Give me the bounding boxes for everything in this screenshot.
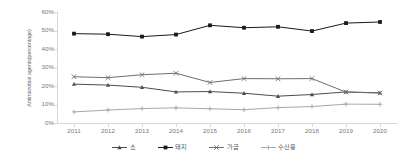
legend-label: 소 [130, 144, 136, 150]
legend-label: 돼지 [175, 144, 187, 150]
data-point-square [344, 21, 348, 25]
data-point-square [163, 145, 167, 149]
data-point-square [140, 35, 144, 39]
data-point-plus [106, 108, 111, 113]
series-line [74, 84, 380, 96]
data-point-plus [72, 110, 77, 115]
data-point-square [276, 25, 280, 29]
data-point-plus [266, 145, 271, 150]
series-소 [72, 82, 382, 98]
data-point-plus [310, 104, 315, 109]
y-axis-tick-mark [54, 105, 57, 106]
data-point-square [208, 23, 212, 27]
legend-item-수산용[interactable]: 수산용 [261, 144, 297, 151]
data-point-plus [208, 106, 213, 111]
legend-item-가금[interactable]: 가금 [209, 144, 239, 151]
legend-marker-icon [158, 144, 173, 151]
data-point-square [378, 20, 382, 24]
y-axis-tick-mark [54, 31, 57, 32]
data-point-plus [140, 106, 145, 111]
series-line [74, 22, 380, 37]
data-point-triangle [117, 145, 121, 149]
data-point-plus [276, 105, 281, 110]
x-axis-tick-mark [312, 124, 313, 127]
series-line [74, 104, 380, 112]
x-axis-tick-mark [108, 124, 109, 127]
series-line [74, 73, 380, 93]
data-point-square [174, 33, 178, 37]
y-axis-tick-mark [54, 68, 57, 69]
x-axis-tick-mark [346, 124, 347, 127]
data-point-plus [344, 102, 349, 107]
series-plot [0, 0, 408, 159]
x-axis-tick-mark [142, 124, 143, 127]
series-가금 [72, 71, 383, 95]
legend-label: 수산용 [278, 144, 296, 150]
data-point-cross [214, 145, 219, 150]
x-axis-tick-mark [74, 124, 75, 127]
x-axis-tick-mark [210, 124, 211, 127]
legend-item-돼지[interactable]: 돼지 [158, 144, 188, 151]
data-point-plus [378, 102, 383, 107]
y-axis-tick-mark [54, 49, 57, 50]
data-point-plus [242, 107, 247, 112]
legend-marker-icon [261, 144, 276, 151]
chart-legend: 소돼지가금수산용 [0, 140, 408, 154]
x-axis-tick-mark [176, 124, 177, 127]
data-point-square [310, 29, 314, 33]
x-axis-tick-mark [244, 124, 245, 127]
series-수산용 [72, 102, 383, 115]
y-axis-tick-mark [54, 123, 57, 124]
series-돼지 [72, 20, 382, 38]
legend-marker-icon [209, 144, 224, 151]
line-chart: Antimicrobial agents(percentage) 0%10%20… [0, 0, 408, 159]
data-point-square [242, 26, 246, 30]
y-axis-tick-mark [54, 86, 57, 87]
x-axis-tick-mark [380, 124, 381, 127]
legend-item-소[interactable]: 소 [112, 144, 136, 151]
data-point-plus [174, 105, 179, 110]
x-axis-tick-mark [278, 124, 279, 127]
data-point-square [106, 32, 110, 36]
data-point-square [72, 32, 76, 36]
legend-label: 가금 [227, 144, 239, 150]
y-axis-tick-mark [54, 12, 57, 13]
legend-marker-icon [112, 144, 127, 151]
